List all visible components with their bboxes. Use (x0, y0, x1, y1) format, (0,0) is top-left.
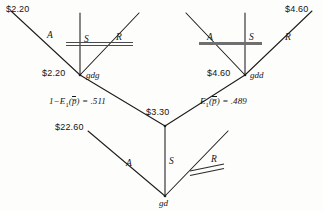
node-dot-gdg (79, 74, 82, 77)
node-value-gdg: $2.20 (42, 69, 66, 78)
branch-label-right-S: S (249, 33, 254, 43)
node-dot-gd (164, 195, 167, 198)
branch-label-left-A: A (47, 31, 53, 41)
branch-label-left-R: R (116, 33, 122, 43)
probability-left-branch: 1−E1(p̅) = .511 (49, 97, 106, 108)
branch-label-bottom-S: S (169, 157, 174, 167)
prob-left-arg: p̅ (72, 97, 77, 106)
prob-right-equals: = .489 (222, 96, 247, 106)
branch-label-left-S: S (84, 35, 89, 45)
prob-right-paren-close: ) (217, 96, 220, 106)
edge-gd-R (165, 131, 228, 196)
node-name-gdd: gdd (250, 71, 264, 80)
node-name-gdg: gdg (86, 71, 100, 80)
payoff-top-left: $2.20 (6, 5, 30, 14)
edge-gdg-R (80, 13, 139, 75)
probability-right-branch: E1(p̅) = .489 (200, 97, 247, 108)
payoff-lower-left: $22.60 (55, 123, 84, 132)
prob-left-paren-close: ) (76, 96, 79, 106)
payoff-top-right: $4.60 (285, 5, 309, 14)
decision-tree-diagram: $2.20 $4.60 A S R $2.20 gdg A S R $4.60 … (0, 0, 323, 211)
branch-label-bottom-A: A (126, 159, 132, 169)
branch-label-right-A: A (207, 33, 213, 43)
prob-left-equals: = .511 (82, 96, 106, 106)
node-value-center: $3.30 (146, 108, 170, 117)
branch-label-right-R: R (285, 33, 291, 43)
cut-mark-left-node (66, 43, 133, 46)
node-dot-gdd (244, 74, 247, 77)
node-name-gd: gd (159, 199, 168, 208)
node-value-gdd: $4.60 (207, 69, 231, 78)
branch-label-bottom-R: R (211, 155, 217, 165)
cut-mark-bottom-R (190, 164, 224, 176)
node-dot-chance (164, 125, 167, 128)
prob-right-arg: p̅ (212, 97, 217, 106)
